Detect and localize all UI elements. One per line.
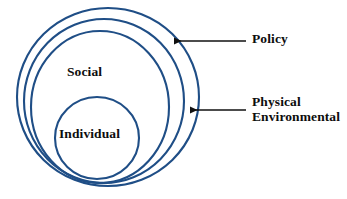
ring-policy — [17, 8, 199, 186]
callout-label-physical-line-2: Environmental — [252, 109, 340, 124]
ring-social — [31, 31, 169, 183]
ring-label-social: Social — [67, 64, 102, 80]
ring-label-individual: Individual — [59, 126, 120, 142]
ring-group — [17, 8, 199, 186]
callout-label-policy: Policy — [252, 31, 288, 46]
callout-label-physical-line-1: Physical — [252, 94, 340, 109]
callout-label-physical-environmental: Physical Environmental — [252, 94, 340, 124]
ecological-model-diagram: Social Individual Policy Physical Enviro… — [0, 0, 347, 199]
